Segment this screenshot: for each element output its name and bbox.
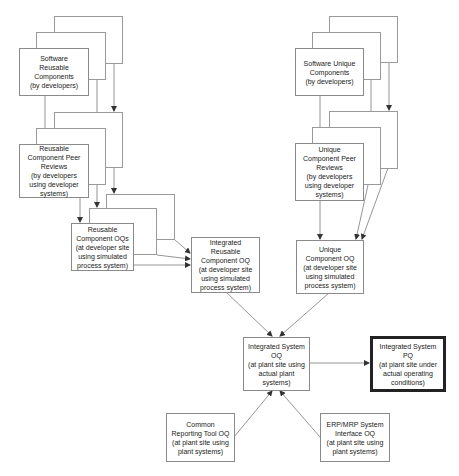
- node-label: (at plant site using: [327, 438, 384, 447]
- node-integrated-system-oq: Integrated System OQ (at plant site usin…: [243, 337, 310, 391]
- node-label: conditions): [391, 378, 425, 387]
- node-software-reusable-components: Software Reusable Components (by develop…: [19, 48, 89, 96]
- node-label: Integrated System: [380, 342, 437, 351]
- node-label: Reusable: [88, 225, 118, 234]
- node-label: using simulated: [201, 274, 250, 283]
- node-label: (by developers: [307, 172, 353, 181]
- node-label: actual operating: [383, 369, 433, 378]
- node-label: Reviews: [316, 163, 342, 172]
- node-label: (by developers: [31, 171, 77, 180]
- node-label: Reusable: [39, 144, 69, 153]
- node-label: Component Peer: [28, 153, 81, 162]
- node-label: (at plant site under: [379, 360, 437, 369]
- node-label: (at developer site: [303, 263, 357, 272]
- diagram-canvas: Software Reusable Components (by develop…: [0, 0, 459, 476]
- node-label: using simulated: [78, 252, 127, 261]
- node-label: Reporting Tool OQ: [172, 429, 230, 438]
- node-label: process system): [200, 283, 251, 292]
- node-label: Software Unique: [304, 59, 356, 68]
- node-label: ERP/MRP System: [326, 420, 383, 429]
- node-label: (by developers): [30, 81, 78, 90]
- node-label: systems): [40, 189, 68, 198]
- node-label: Common: [186, 420, 214, 429]
- node-label: Unique: [318, 145, 340, 154]
- node-label: Integrated: [210, 238, 242, 247]
- node-label: (at developer site: [76, 243, 130, 252]
- node-common-reporting-tool-oq: Common Reporting Tool OQ (at plant site …: [166, 413, 235, 462]
- node-software-unique-components: Software Unique Components (by developer…: [295, 48, 364, 96]
- node-label: Component OQs: [76, 234, 129, 243]
- node-label: (at developer site: [199, 265, 253, 274]
- node-label: Component OQ: [201, 256, 250, 265]
- node-label: Reusable: [39, 63, 69, 72]
- node-label: Software: [40, 54, 68, 63]
- node-label: (at plant site using: [248, 360, 305, 369]
- node-unique-component-oq: Unique Component OQ (at developer site u…: [296, 240, 364, 294]
- node-label: (at plant site using: [172, 438, 229, 447]
- node-label: Reusable: [211, 247, 241, 256]
- node-label: Components: [310, 68, 350, 77]
- node-label: systems): [316, 190, 344, 199]
- node-integrated-system-pq: Integrated System PQ (at plant site unde…: [370, 336, 446, 392]
- node-unique-component-peer-reviews: Unique Component Peer Reviews (by develo…: [295, 143, 364, 201]
- node-label: Component OQ: [305, 254, 354, 263]
- node-label: using developer: [29, 180, 78, 189]
- node-label: Unique: [319, 245, 341, 254]
- node-erp-mrp-system-interface-oq: ERP/MRP System Interface OQ (at plant si…: [320, 413, 390, 462]
- node-label: systems): [263, 378, 291, 387]
- node-reusable-component-peer-reviews: Reusable Component Peer Reviews (by deve…: [19, 144, 89, 198]
- node-label: plant systems): [178, 447, 223, 456]
- node-label: actual plant: [259, 369, 295, 378]
- node-integrated-reusable-component-oq: Integrated Reusable Component OQ (at dev…: [191, 237, 260, 293]
- node-reusable-component-oqs: Reusable Component OQs (at developer sit…: [71, 223, 134, 271]
- node-label: Interface OQ: [335, 429, 375, 438]
- node-label: OQ: [271, 351, 282, 360]
- node-label: process system): [305, 281, 356, 290]
- node-label: PQ: [403, 351, 413, 360]
- node-label: Components: [34, 72, 74, 81]
- node-label: (by developers): [305, 77, 353, 86]
- node-label: process system): [77, 261, 128, 270]
- node-label: using simulated: [306, 272, 355, 281]
- node-label: Component Peer: [303, 154, 356, 163]
- node-label: plant systems): [332, 447, 377, 456]
- node-label: using developer: [305, 181, 354, 190]
- node-label: Integrated System: [248, 342, 305, 351]
- node-label: Reviews: [41, 162, 67, 171]
